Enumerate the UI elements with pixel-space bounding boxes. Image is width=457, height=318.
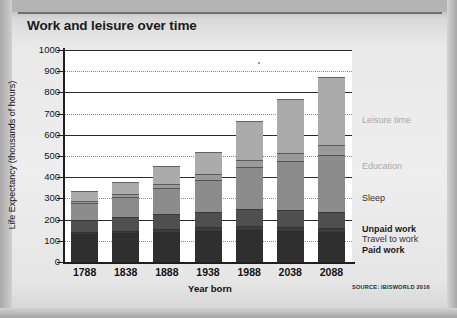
bar-segment-sleep: [153, 188, 180, 215]
y-tick-label: 100: [16, 235, 60, 246]
x-tick-label: 1888: [144, 266, 190, 278]
legend-item-leisure-time: Leisure time: [362, 115, 411, 125]
y-tick-label: 1000: [16, 44, 60, 55]
bar: [277, 50, 304, 262]
legend-item-travel-to-work: Travel to work: [362, 234, 418, 244]
y-tick-label: 200: [16, 214, 60, 225]
bar-segment-paid-work: [236, 230, 263, 262]
y-tick: [57, 177, 64, 178]
bar-segment-sleep: [195, 180, 222, 212]
bar-segment-unpaid-work: [71, 220, 98, 233]
x-tick-label: 2038: [267, 266, 313, 278]
bar-segment-paid-work: [153, 232, 180, 262]
y-tick-label: 300: [16, 192, 60, 203]
bar-segment-unpaid-work: [112, 217, 139, 231]
bar-segment-leisure-time: [318, 77, 345, 146]
y-tick: [57, 262, 64, 263]
bar: [71, 50, 98, 262]
bar-segment-sleep: [71, 203, 98, 220]
x-axis-title: Year born: [150, 283, 270, 294]
x-tick-label: 2088: [308, 266, 354, 278]
bar-segment-leisure-time: [195, 152, 222, 174]
x-tick-label: 1938: [185, 266, 231, 278]
legend-item-education: Education: [362, 161, 402, 171]
bar-segment-sleep: [318, 155, 345, 212]
bar-segment-unpaid-work: [153, 214, 180, 229]
y-tick-label: 900: [16, 65, 60, 76]
bar-segment-leisure-time: [153, 166, 180, 184]
legend-item-unpaid-work: Unpaid work: [362, 224, 416, 234]
bar-segment-leisure-time: [277, 99, 304, 153]
title-rule: [18, 12, 442, 14]
x-axis-line: [63, 262, 355, 264]
y-tick: [57, 92, 64, 93]
x-tick-label: 1788: [62, 266, 108, 278]
y-tick: [57, 220, 64, 221]
y-tick-label: 800: [16, 86, 60, 97]
bar-segment-unpaid-work: [277, 210, 304, 227]
bar-segment-unpaid-work: [195, 212, 222, 228]
bar-segment-paid-work: [195, 231, 222, 262]
y-tick: [57, 50, 64, 51]
y-axis-title: Life Expectancy (thousands of hours): [7, 60, 17, 250]
bar-segment-paid-work: [277, 231, 304, 262]
card-right-edge: [447, 0, 457, 318]
bar-segment-sleep: [236, 167, 263, 208]
y-tick: [57, 114, 64, 115]
artifact-speck: [258, 62, 260, 64]
bar-segment-education: [318, 145, 345, 155]
x-tick-label: 1988: [226, 266, 272, 278]
card-top-shade: [0, 0, 457, 12]
bar: [236, 50, 263, 262]
y-tick-label: 600: [16, 129, 60, 140]
card-bottom-edge: [0, 308, 457, 318]
bar-segment-leisure-time: [236, 121, 263, 160]
bar-segment-paid-work: [318, 232, 345, 262]
y-tick-label: 700: [16, 108, 60, 119]
bar-segment-paid-work: [71, 234, 98, 262]
y-tick-label: 500: [16, 150, 60, 161]
y-tick-label: 0: [16, 256, 60, 267]
bar-segment-education: [236, 160, 263, 167]
y-tick: [57, 241, 64, 242]
bar: [318, 50, 345, 262]
legend-item-paid-work: Paid work: [362, 245, 405, 255]
bar-segment-unpaid-work: [318, 212, 345, 228]
x-tick-label: 1838: [103, 266, 149, 278]
bar: [112, 50, 139, 262]
bar: [153, 50, 180, 262]
y-tick-label: 400: [16, 171, 60, 182]
chart-card: Work and leisure over time 0100200300400…: [0, 0, 457, 318]
bar-segment-paid-work: [112, 233, 139, 262]
bar-segment-sleep: [112, 197, 139, 217]
bar-segment-education: [277, 153, 304, 161]
bar-segment-leisure-time: [112, 182, 139, 195]
y-tick: [57, 198, 64, 199]
bar-segment-leisure-time: [71, 191, 98, 201]
source-note: SOURCE: IBISWORLD 2016: [352, 284, 430, 290]
bar: [195, 50, 222, 262]
bar-segment-sleep: [277, 161, 304, 210]
y-tick: [57, 135, 64, 136]
legend-item-sleep: Sleep: [362, 193, 385, 203]
y-tick: [57, 156, 64, 157]
y-tick: [57, 71, 64, 72]
bar-segment-unpaid-work: [236, 209, 263, 226]
